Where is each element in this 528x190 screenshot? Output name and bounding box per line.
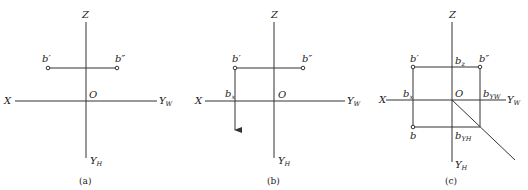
label-yh: YH (455, 159, 468, 172)
point-b-double-prime (301, 66, 305, 70)
label-bx: bx (225, 88, 235, 101)
point-b-prime (411, 65, 415, 69)
label-b-prime: b′ (410, 53, 419, 64)
caption-c: (c) (445, 176, 457, 186)
label-o: O (455, 88, 463, 99)
label-z: Z (448, 9, 457, 20)
point-b-double-prime (478, 65, 482, 69)
panel-c: Z X O YW YH b′ b″ b bx bz bYW bYH (c) (378, 9, 522, 186)
panel-b: Z X O YW YH b′ b″ bx (b) (194, 9, 362, 186)
label-b-prime: b′ (42, 53, 51, 64)
label-x: X (194, 95, 203, 106)
label-z: Z (81, 9, 90, 20)
caption-a: (a) (79, 176, 91, 186)
label-yw: YW (507, 94, 522, 107)
label-bx: bx (403, 88, 413, 101)
label-x: X (378, 94, 387, 105)
label-b-double-prime: b″ (479, 53, 489, 64)
label-o: O (89, 89, 97, 100)
point-b (411, 125, 415, 129)
projection-diagrams: Z X O YW YH b′ b″ (a) Z X O YW YH b′ b″ … (0, 0, 528, 190)
label-b-prime: b′ (232, 53, 241, 64)
caption-b: (b) (267, 176, 280, 186)
label-b-double-prime: b″ (302, 53, 312, 64)
point-b-prime (233, 66, 237, 70)
label-x: X (3, 95, 12, 106)
label-byw: bYW (483, 88, 502, 101)
panel-a: Z X O YW YH b′ b″ (a) (3, 9, 174, 186)
label-byh: bYH (455, 130, 472, 143)
45-degree-line (452, 100, 515, 160)
point-b-prime (46, 66, 50, 70)
point-b-double-prime (115, 66, 119, 70)
label-yw: YW (347, 95, 362, 108)
label-z: Z (270, 9, 279, 20)
label-yh: YH (90, 155, 103, 168)
label-o: O (278, 89, 286, 100)
label-yw: YW (159, 95, 174, 108)
label-b-double-prime: b″ (115, 53, 125, 64)
label-b: b (410, 130, 416, 141)
label-yh: YH (278, 155, 291, 168)
label-bz: bz (455, 55, 465, 68)
